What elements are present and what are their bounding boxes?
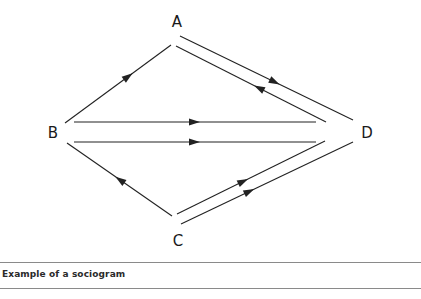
nodes-group: ABCD — [48, 13, 373, 250]
arrowhead-icon — [122, 70, 135, 82]
node-label-c: C — [173, 232, 183, 250]
node-label-b: B — [48, 124, 58, 142]
caption-top-rule — [0, 262, 421, 263]
sociogram-diagram: ABCD — [0, 0, 421, 260]
arrowhead-icon — [189, 118, 200, 125]
edge-b-to-a — [65, 45, 171, 123]
node-label-a: A — [172, 13, 183, 31]
edge-a-to-d — [180, 36, 353, 120]
node-label-d: D — [361, 124, 373, 142]
arrowhead-icon — [252, 82, 265, 93]
figure-caption: Example of a sociogram — [2, 269, 125, 279]
arrowhead-icon — [113, 174, 126, 186]
edges-group — [65, 36, 353, 224]
edge-d-to-a — [176, 46, 326, 122]
arrowhead-icon — [189, 138, 200, 145]
arrowhead-icon — [237, 176, 250, 187]
arrowhead-icon — [243, 186, 256, 197]
edge-c-to-d — [181, 142, 353, 224]
edge-c-to-d — [177, 141, 325, 214]
arrowhead-icon — [268, 76, 281, 87]
caption-bottom-rule — [0, 288, 421, 289]
